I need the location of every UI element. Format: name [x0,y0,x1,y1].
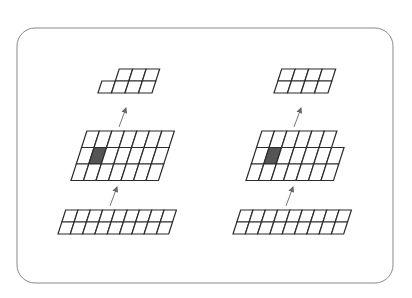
up-arrow-icon [294,108,301,127]
diagram-content [58,69,351,234]
up-arrow-icon [110,187,117,206]
right-bottom-grid [233,210,351,234]
right-middle-grid [246,131,344,181]
right-stack [233,69,351,234]
up-arrow-icon [286,187,293,206]
up-arrow-icon [119,108,126,127]
left-middle-grid [71,131,174,181]
diagram-canvas [0,0,412,298]
left-top-grid [98,69,160,93]
right-top-grid [274,69,336,93]
left-stack [58,69,176,234]
left-bottom-grid [58,210,176,234]
